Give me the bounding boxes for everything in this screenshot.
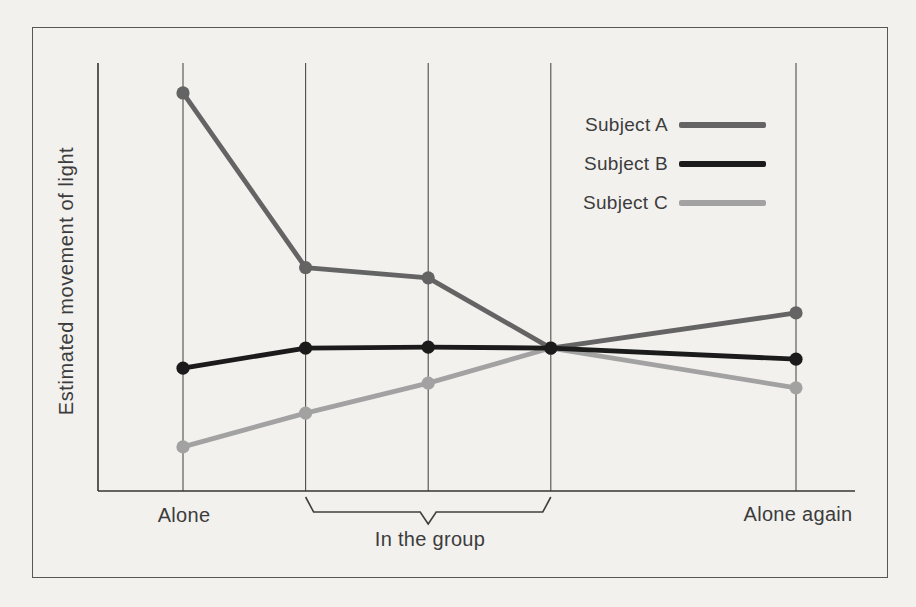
legend-label: Subject C — [573, 192, 668, 214]
legend-line-swatch — [679, 200, 766, 206]
legend-item-subject-a: Subject A — [573, 105, 766, 144]
legend-line-swatch — [679, 161, 766, 167]
legend-item-subject-c: Subject C — [573, 183, 766, 222]
legend-label: Subject A — [573, 114, 668, 136]
x-label-alone-again: Alone again — [744, 503, 853, 526]
y-axis-label: Estimated movement of light — [55, 147, 78, 416]
page-background: Estimated movement of light Alone In the… — [0, 0, 916, 607]
legend: Subject A Subject B Subject C — [573, 105, 766, 222]
x-label-in-the-group: In the group — [375, 528, 485, 551]
legend-line-swatch — [679, 122, 766, 128]
legend-label: Subject B — [573, 153, 668, 175]
legend-item-subject-b: Subject B — [573, 144, 766, 183]
x-label-alone: Alone — [158, 504, 211, 527]
